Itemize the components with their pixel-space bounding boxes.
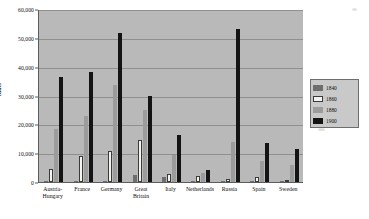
chart-legend: 1840186018801900 [310,79,359,128]
y-axis-tick-label: 20,000 [0,122,34,128]
x-axis-tick-label: Great Britain [126,186,155,201]
legend-label: 1840 [326,85,337,91]
bar [191,181,195,182]
bar-group [216,10,245,182]
bar-group [39,10,68,182]
bar [221,181,225,182]
bar [255,177,259,182]
bar-group [186,10,215,182]
bar [172,155,176,182]
x-axis-tick-label: France [67,186,96,193]
bar [177,135,181,182]
bar [236,29,240,182]
bar [162,177,166,182]
x-axis-labels: Austria-HungaryFranceGermanyGreat Britai… [38,186,303,216]
plot-area-wrapper [38,10,303,183]
plot-area [38,10,303,183]
legend-swatch-icon [313,118,323,124]
legend-swatch-icon [313,96,323,102]
bar [206,170,210,182]
bar-group [245,10,274,182]
chart-container: Miles 010,00020,00030,00040,00050,00060,… [0,0,369,219]
bar [226,179,230,182]
y-axis-tick-label: 10,000 [0,151,34,157]
x-axis-tick-label: Spain [244,186,273,193]
bar [84,116,88,182]
y-axis: Miles 010,00020,00030,00040,00050,00060,… [0,0,38,183]
bar [118,33,122,182]
bar [167,174,171,182]
y-axis-tick-label: 30,000 [0,94,34,100]
bar [74,181,78,182]
y-axis-tick-label: 0 [0,180,34,186]
bar [265,143,269,182]
bar [89,72,93,182]
bar [280,181,284,182]
legend-item: 1860 [313,93,356,104]
bar [231,142,235,182]
bar [138,140,142,182]
bar [201,173,205,182]
legend-item: 1900 [313,115,356,126]
bar [103,181,107,182]
legend-label: 1860 [326,96,337,102]
scan-artifact [352,8,357,11]
y-axis-tick-label: 40,000 [0,65,34,71]
bar [133,175,137,182]
legend-label: 1900 [326,118,337,124]
legend-swatch-icon [313,107,323,113]
legend-swatch-icon [313,85,323,91]
bar-group [68,10,97,182]
bar [196,176,200,182]
bar [285,180,289,182]
bar [54,129,58,182]
legend-label: 1880 [326,107,337,113]
bar-group [127,10,156,182]
x-axis-tick-label: Russia [215,186,244,193]
bar-group [275,10,304,182]
x-axis-tick-label: Germany [97,186,126,193]
legend-item: 1880 [313,104,356,115]
bar [108,151,112,182]
bar [113,85,117,182]
y-axis-tick-label: 60,000 [0,7,34,13]
bar-group [157,10,186,182]
bar [295,149,299,182]
legend-item: 1840 [313,82,356,93]
x-axis-tick-label: Italy [156,186,185,193]
x-axis-tick-label: Austria-Hungary [38,186,67,201]
bar [44,181,48,182]
bar [59,77,63,182]
x-axis-tick-label: Sweden [274,186,303,193]
bar-group [98,10,127,182]
bar [148,96,152,183]
bar [260,161,264,182]
bar [143,110,147,182]
bar [290,165,294,182]
bar [49,169,53,182]
scan-artifact [318,128,325,131]
y-axis-tick-label: 50,000 [0,36,34,42]
bar [79,156,83,182]
x-axis-tick-label: Netherlands [185,186,214,193]
bar [250,181,254,182]
